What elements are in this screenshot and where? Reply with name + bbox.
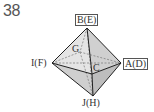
vertex-label-top: B(E): [75, 14, 98, 26]
vertex-label-left: I(F): [31, 58, 47, 68]
vertex-label-front: C: [93, 63, 100, 73]
vertex-label-right: A(D): [123, 58, 148, 70]
vertex-label-bottom: J(H): [82, 98, 100, 108]
vertex-label-back: G: [72, 44, 79, 54]
